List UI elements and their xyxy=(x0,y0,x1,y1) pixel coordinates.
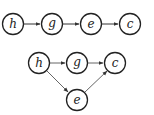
node-label: e xyxy=(73,93,80,107)
edge-h-e xyxy=(47,71,68,92)
node-label: h xyxy=(9,17,17,31)
chain-graph: h g e c xyxy=(3,14,141,35)
node-e: e xyxy=(81,14,102,35)
node-e: e xyxy=(67,90,88,111)
node-label: g xyxy=(73,55,81,69)
node-label: c xyxy=(127,17,134,31)
node-g: g xyxy=(42,14,63,35)
node-label: c xyxy=(112,56,119,70)
node-h: h xyxy=(29,53,50,74)
node-g: g xyxy=(67,53,88,74)
branch-graph: h g c e xyxy=(29,53,126,111)
edge-e-c xyxy=(85,71,107,92)
node-h: h xyxy=(3,14,24,35)
node-label: g xyxy=(48,16,56,30)
node-c: c xyxy=(105,53,126,74)
node-label: e xyxy=(87,17,94,31)
node-c: c xyxy=(120,14,141,35)
node-label: h xyxy=(35,56,43,70)
diagram-canvas: h g e c h g c xyxy=(0,0,154,115)
